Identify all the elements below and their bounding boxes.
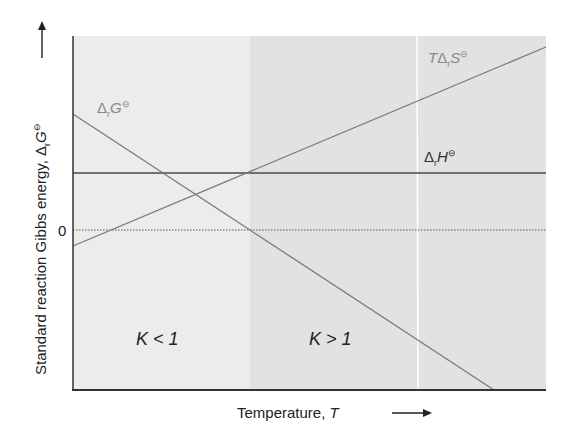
label-k-less: K < 1 <box>136 329 179 349</box>
y-axis-label: Standard reaction Gibbs energy, ΔrG⊖ <box>32 123 52 375</box>
gibbs-energy-chart: 0 ΔrG⊖ TΔrS⊖ ΔrH⊖ K < 1 K > 1 Temperatur… <box>0 0 580 441</box>
white-divider <box>417 36 418 390</box>
label-k-more: K > 1 <box>309 329 352 349</box>
x-axis-arrow-icon <box>392 409 432 417</box>
y-axis-arrow-icon <box>38 21 46 58</box>
x-axis-label: Temperature, T <box>237 404 341 421</box>
region-k-greater-than-1 <box>250 36 546 390</box>
zero-tick-label: 0 <box>58 222 66 239</box>
